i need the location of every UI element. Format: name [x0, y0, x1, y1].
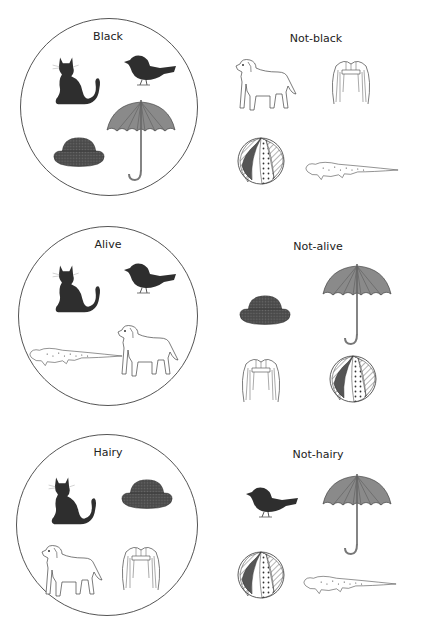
lizard-icon: [304, 158, 400, 182]
lizard-icon: [28, 344, 124, 368]
dog-icon: [116, 322, 180, 378]
beach-ball-icon: [236, 550, 286, 600]
complement-label-not-black: Not-black: [286, 32, 346, 45]
bird-icon: [122, 52, 178, 86]
cat-icon: [42, 472, 100, 528]
umbrella-icon: [104, 100, 178, 182]
set-label-black: Black: [88, 30, 128, 43]
wig-icon: [236, 354, 286, 404]
dog-icon: [234, 56, 298, 112]
beach-ball-icon: [328, 354, 378, 404]
cat-icon: [46, 260, 104, 316]
cat-icon: [46, 52, 104, 108]
lizard-icon: [302, 572, 398, 596]
umbrella-icon: [320, 474, 394, 556]
set-label-hairy: Hairy: [90, 446, 126, 459]
bird-icon: [244, 484, 300, 518]
umbrella-icon: [320, 264, 394, 346]
complement-label-not-alive: Not-alive: [290, 240, 346, 253]
hat-icon: [238, 290, 292, 330]
wig-icon: [326, 56, 376, 106]
beach-ball-icon: [236, 136, 286, 186]
dog-icon: [40, 542, 104, 598]
hat-icon: [52, 132, 106, 172]
wig-icon: [116, 542, 166, 592]
set-label-alive: Alive: [90, 238, 126, 251]
complement-label-not-hairy: Not-hairy: [288, 448, 348, 461]
set-circle-alive: [18, 226, 198, 406]
hat-icon: [120, 474, 174, 514]
bird-icon: [122, 260, 178, 294]
